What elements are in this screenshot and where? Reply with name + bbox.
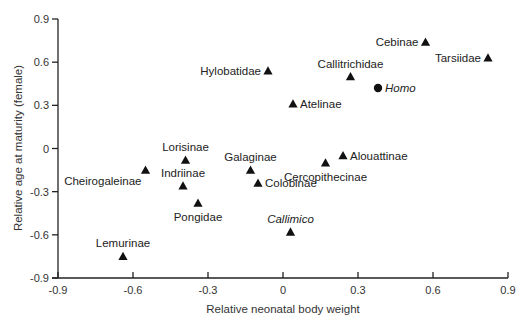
triangle-marker-icon [286,227,295,235]
scatter-chart: -0.9-0.6-0.300.30.60.90.90.60.30-0.3-0.6… [0,0,532,331]
x-tick-label: -0.6 [124,284,143,296]
data-point: Atelinae [288,98,341,110]
triangle-marker-icon [288,99,297,107]
point-label: Indriinae [161,167,205,179]
x-tick-label: 0.3 [350,284,365,296]
triangle-marker-icon [141,165,150,173]
data-point: Galaginae [224,151,276,174]
data-point: Lorisinae [162,141,209,164]
point-label: Hylobatidae [200,65,261,77]
triangle-marker-icon [338,151,347,159]
y-tick-label: -0.6 [30,229,49,241]
point-label: Callitrichidae [318,58,384,70]
triangle-marker-icon [193,199,202,207]
triangle-marker-icon [178,181,187,189]
x-tick-label: 0.9 [500,284,515,296]
data-point: Lemurinae [96,237,150,260]
data-points: CebinaeTarsiidaeHylobatidaeCallitrichida… [64,36,492,260]
triangle-marker-icon [181,155,190,163]
data-point: Alouattinae [338,150,407,162]
point-label: Tarsiidae [435,52,481,64]
circle-marker-icon [374,84,382,92]
y-tick-label: -0.9 [30,272,49,284]
y-tick-label: 0 [43,143,49,155]
point-label: Atelinae [300,98,342,110]
y-tick-label: 0.6 [34,56,49,68]
data-point: Pongidae [174,199,223,224]
x-tick-label: -0.9 [49,284,68,296]
triangle-marker-icon [246,165,255,173]
data-point: Hylobatidae [200,65,272,77]
point-label: Lorisinae [162,141,209,153]
y-tick-label: 0.3 [34,99,49,111]
data-point: Colobinae [253,177,316,189]
triangle-marker-icon [421,37,430,45]
data-point: Cebinae [376,36,430,48]
x-tick-label: 0 [280,284,286,296]
triangle-marker-icon [321,158,330,166]
triangle-marker-icon [253,178,262,186]
point-label: Lemurinae [96,237,150,249]
triangle-marker-icon [483,53,492,61]
data-point: Homo [374,82,416,94]
y-axis-label: Relative age at maturity (female) [12,65,24,231]
point-label: Cheirogaleinae [64,175,141,187]
x-tick-label: 0.6 [425,284,440,296]
point-label: Alouattinae [350,150,408,162]
data-point: Indriinae [161,167,205,190]
y-tick-label: 0.9 [34,13,49,25]
data-point: Callitrichidae [318,58,384,81]
data-point: Cheirogaleinae [64,165,150,187]
data-point: Tarsiidae [435,52,493,64]
point-label: Homo [385,82,416,94]
point-label: Colobinae [265,177,317,189]
triangle-marker-icon [263,66,272,74]
x-axis-label: Relative neonatal body weight [206,303,360,315]
y-tick-label: -0.3 [30,186,49,198]
triangle-marker-icon [346,72,355,80]
point-label: Callimico [267,213,314,225]
x-tick-label: -0.3 [199,284,218,296]
triangle-marker-icon [118,252,127,260]
point-label: Cebinae [376,36,419,48]
point-label: Galaginae [224,151,276,163]
point-label: Pongidae [174,211,223,223]
data-point: Callimico [267,213,314,236]
